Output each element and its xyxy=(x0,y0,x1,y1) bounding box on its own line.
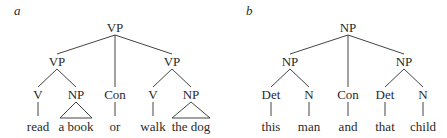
word-or: or xyxy=(110,119,122,134)
word-the-dog: the dog xyxy=(172,119,211,134)
node-root: NP xyxy=(340,20,357,35)
syntax-tree-figure: a VP VP VP V NP Con V NP read a book or … xyxy=(0,0,447,138)
word-walk: walk xyxy=(140,119,166,134)
node-con: Con xyxy=(104,87,126,102)
node-root: VP xyxy=(107,20,124,35)
node-np-1: NP xyxy=(68,87,85,102)
node-n-2: N xyxy=(418,87,428,102)
node-v-1: V xyxy=(33,87,43,102)
tree-b: b NP NP NP Det N Con Det N this man and … xyxy=(246,3,436,134)
panel-label-a: a xyxy=(14,3,21,18)
node-left-np: NP xyxy=(282,54,299,69)
triangle-np-2 xyxy=(172,102,210,118)
node-right-np: NP xyxy=(396,54,413,69)
word-read: read xyxy=(27,119,50,134)
word-a-book: a book xyxy=(58,119,94,134)
panel-label-b: b xyxy=(246,3,253,18)
word-man: man xyxy=(298,119,321,134)
word-and: and xyxy=(339,119,358,134)
triangle-np-1 xyxy=(60,102,92,118)
node-v-2: V xyxy=(148,87,158,102)
node-det-2: Det xyxy=(376,87,395,102)
node-det-1: Det xyxy=(262,87,281,102)
node-right-vp: VP xyxy=(164,54,181,69)
word-that: that xyxy=(375,119,395,134)
word-child: child xyxy=(410,119,436,134)
node-np-2: NP xyxy=(183,87,200,102)
word-this: this xyxy=(262,119,281,134)
node-n-1: N xyxy=(304,87,314,102)
node-left-vp: VP xyxy=(49,54,66,69)
node-con: Con xyxy=(337,87,359,102)
tree-a: a VP VP VP V NP Con V NP read a book or … xyxy=(14,3,211,134)
